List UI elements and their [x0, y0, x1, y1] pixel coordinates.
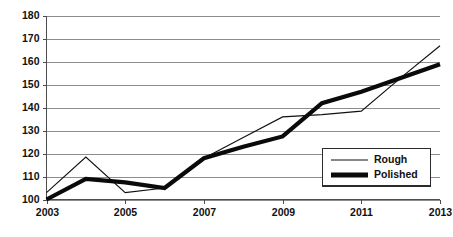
- chart-canvas: 100110120130140150160170180 200320052007…: [0, 0, 453, 237]
- y-tick-label-120: 120: [22, 147, 40, 159]
- x-tick-label-2011: 2011: [350, 206, 373, 218]
- legend: Rough Polished: [323, 149, 431, 187]
- x-axis-ticks: 200320052007200920112013: [36, 200, 453, 218]
- x-tick-label-2007: 2007: [193, 206, 217, 218]
- y-tick-label-100: 100: [22, 193, 40, 205]
- legend-label-polished: Polished: [374, 168, 418, 180]
- y-tick-label-150: 150: [22, 78, 40, 90]
- y-tick-label-160: 160: [22, 55, 40, 67]
- y-tick-label-140: 140: [22, 101, 40, 113]
- y-tick-label-110: 110: [23, 170, 40, 182]
- y-tick-label-170: 170: [22, 32, 40, 44]
- y-tick-label-180: 180: [22, 9, 40, 21]
- y-tick-label-130: 130: [22, 124, 40, 136]
- line-chart: 100110120130140150160170180 200320052007…: [0, 0, 453, 237]
- x-tick-label-2013: 2013: [429, 206, 453, 218]
- legend-label-rough: Rough: [374, 153, 407, 165]
- x-tick-label-2009: 2009: [272, 206, 296, 218]
- y-axis-ticks: 100110120130140150160170180: [22, 9, 47, 205]
- x-tick-label-2003: 2003: [36, 206, 60, 218]
- x-tick-label-2005: 2005: [114, 206, 138, 218]
